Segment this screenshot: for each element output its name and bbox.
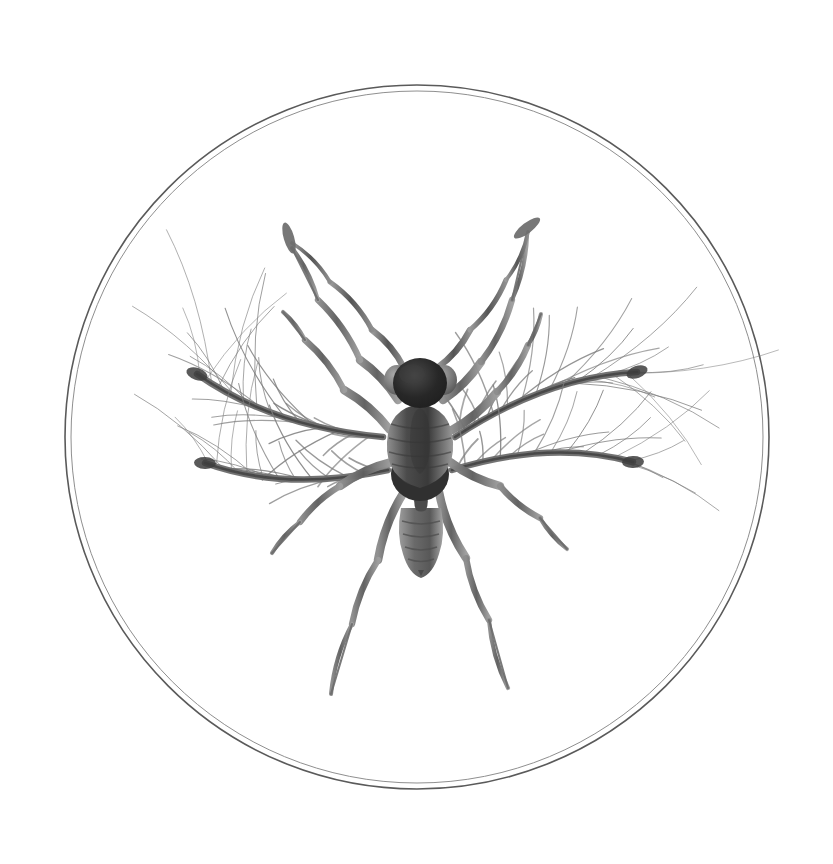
head-highlight [399,364,425,384]
specimen-illustration [0,0,833,864]
head-capsule [393,358,447,408]
specimen-plate [0,0,833,864]
